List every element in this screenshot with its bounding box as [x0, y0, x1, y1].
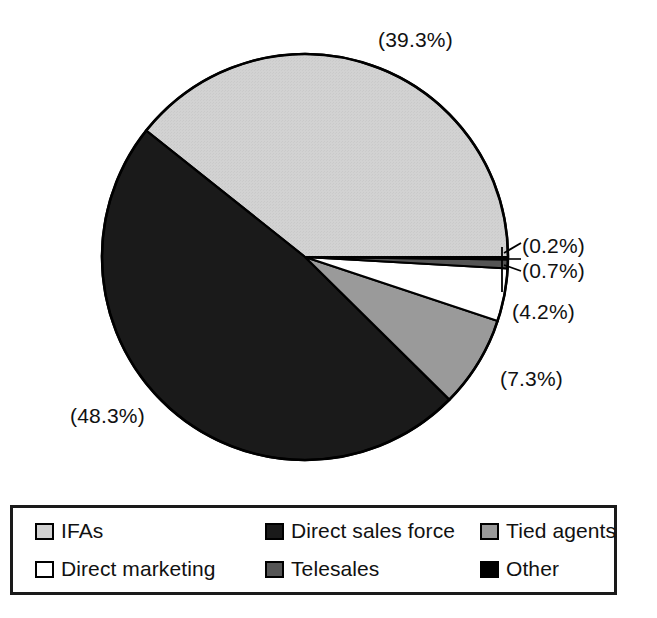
legend-label-telesales: Telesales	[291, 557, 379, 581]
legend-grid: IFAs Direct sales force Tied agents Dire…	[13, 508, 614, 592]
slice-value-label-ifas: (39.3%)	[378, 28, 453, 52]
legend-item-ifas[interactable]: IFAs	[35, 519, 265, 543]
slice-value-label-direct-sales-force: (48.3%)	[70, 404, 145, 428]
legend-item-tied-agents[interactable]: Tied agents	[480, 519, 616, 543]
chart-legend: IFAs Direct sales force Tied agents Dire…	[10, 505, 617, 595]
slice-value-label-other: (0.2%)	[522, 234, 585, 258]
legend-label-direct-marketing: Direct marketing	[61, 557, 215, 581]
legend-swatch-tied-agents	[480, 523, 499, 540]
legend-swatch-other	[480, 561, 499, 578]
legend-swatch-ifas	[35, 523, 54, 540]
legend-label-other: Other	[506, 557, 559, 581]
slice-value-label-telesales: (0.7%)	[522, 259, 585, 283]
legend-label-direct-sales-force: Direct sales force	[291, 519, 455, 543]
legend-item-telesales[interactable]: Telesales	[265, 557, 480, 581]
legend-item-direct-sales-force[interactable]: Direct sales force	[265, 519, 480, 543]
pie-chart-figure: (39.3%) (0.2%) (0.7%) (4.2%) (7.3%) (48.…	[0, 0, 657, 618]
legend-swatch-direct-sales-force	[265, 523, 284, 540]
legend-swatch-telesales	[265, 561, 284, 578]
legend-swatch-direct-marketing	[35, 561, 54, 578]
slice-value-label-tied-agents: (7.3%)	[500, 367, 563, 391]
pie-plot-area: (39.3%) (0.2%) (0.7%) (4.2%) (7.3%) (48.…	[0, 0, 657, 490]
slice-value-label-direct-marketing: (4.2%)	[512, 300, 575, 324]
legend-label-ifas: IFAs	[61, 519, 103, 543]
legend-item-direct-marketing[interactable]: Direct marketing	[35, 557, 265, 581]
legend-label-tied-agents: Tied agents	[506, 519, 616, 543]
legend-item-other[interactable]: Other	[480, 557, 616, 581]
